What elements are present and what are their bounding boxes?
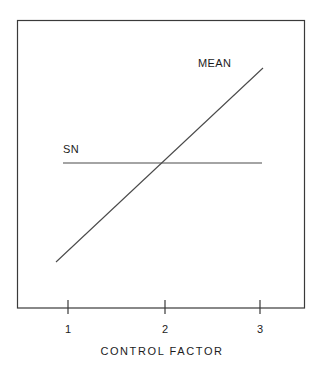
mean-series-label: MEAN [198,57,231,69]
x-axis-title: CONTROL FACTOR [100,345,223,357]
figure-background [0,0,322,370]
x-tick-label-2: 2 [162,323,168,335]
x-tick-label-3: 3 [257,323,263,335]
sn-series-label: SN [63,143,79,155]
x-tick-label-1: 1 [65,323,71,335]
control-factor-chart: MEAN SN 1 2 3 CONTROL FACTOR [0,0,322,370]
chart-figure: MEAN SN 1 2 3 CONTROL FACTOR [0,0,322,370]
